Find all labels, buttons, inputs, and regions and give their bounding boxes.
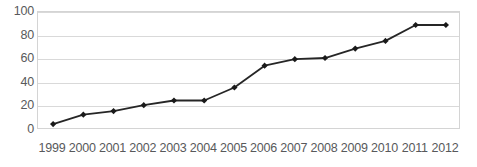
y-axis-tick-label: 100 bbox=[0, 5, 34, 18]
x-axis-tick-label: 2002 bbox=[129, 142, 156, 155]
x-axis: 1999200020012002200320042005200620072008… bbox=[37, 134, 460, 162]
line-chart: 020406080100 199920002001200220032004200… bbox=[0, 0, 477, 167]
y-axis-tick-label: 20 bbox=[0, 99, 34, 112]
data-point-marker bbox=[352, 45, 358, 51]
data-point-marker bbox=[413, 22, 419, 28]
data-point-marker bbox=[292, 56, 298, 62]
data-point-marker bbox=[322, 55, 328, 61]
x-axis-tick-label: 2000 bbox=[69, 142, 96, 155]
y-axis: 020406080100 bbox=[0, 0, 34, 167]
data-point-marker bbox=[141, 102, 147, 108]
data-point-marker bbox=[110, 108, 116, 114]
x-axis-tick-label: 2012 bbox=[431, 142, 458, 155]
data-point-marker bbox=[201, 97, 207, 103]
data-point-marker bbox=[171, 97, 177, 103]
data-point-marker bbox=[443, 22, 449, 28]
series-line bbox=[38, 12, 460, 129]
x-axis-tick-label: 2008 bbox=[311, 142, 338, 155]
plot-area bbox=[37, 11, 460, 129]
x-axis-tick-label: 2006 bbox=[250, 142, 277, 155]
x-axis-tick-label: 2003 bbox=[159, 142, 186, 155]
y-axis-tick-label: 0 bbox=[0, 123, 34, 136]
x-axis-tick-label: 2009 bbox=[341, 142, 368, 155]
x-axis-tick-label: 2010 bbox=[371, 142, 398, 155]
y-axis-tick-label: 40 bbox=[0, 76, 34, 89]
x-axis-tick-label: 2004 bbox=[190, 142, 217, 155]
y-axis-tick-label: 80 bbox=[0, 29, 34, 42]
data-point-marker bbox=[382, 38, 388, 44]
x-axis-tick-label: 2011 bbox=[402, 142, 428, 155]
x-axis-tick-label: 2005 bbox=[220, 142, 247, 155]
x-axis-tick-label: 2007 bbox=[280, 142, 307, 155]
data-point-marker bbox=[50, 121, 56, 127]
data-point-marker bbox=[80, 112, 86, 118]
x-axis-tick-label: 1999 bbox=[39, 142, 66, 155]
x-axis-tick-label: 2001 bbox=[99, 142, 126, 155]
y-axis-tick-label: 60 bbox=[0, 52, 34, 65]
